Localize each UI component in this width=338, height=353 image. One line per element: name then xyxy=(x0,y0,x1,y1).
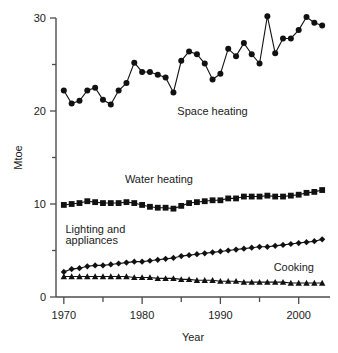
data-point-circle xyxy=(257,61,263,67)
data-point-circle xyxy=(131,60,137,66)
data-point-circle xyxy=(123,80,129,86)
data-point-diamond xyxy=(92,262,98,268)
data-point-square xyxy=(147,204,153,210)
data-point-square xyxy=(202,198,208,204)
data-point-circle xyxy=(76,98,82,104)
data-point-square xyxy=(272,194,278,200)
line-chart-canvas: 01020301970198019902000 Space heatingWat… xyxy=(0,0,338,353)
data-point-diamond xyxy=(84,263,90,269)
data-point-square xyxy=(186,200,192,206)
series-polyline xyxy=(64,16,322,104)
x-tick-label: 1970 xyxy=(52,309,76,321)
data-point-circle xyxy=(92,85,98,91)
y-axis-title: Mtoe xyxy=(12,145,24,169)
data-point-circle xyxy=(178,58,184,64)
data-point-square xyxy=(108,200,114,206)
data-point-circle xyxy=(163,75,169,81)
data-point-diamond xyxy=(100,262,106,268)
data-point-diamond xyxy=(69,266,75,272)
data-point-diamond xyxy=(163,256,169,262)
data-point-square xyxy=(178,203,184,209)
data-point-diamond xyxy=(209,249,215,255)
data-point-diamond xyxy=(217,248,223,254)
data-point-diamond xyxy=(202,250,208,256)
data-point-diamond xyxy=(155,257,161,263)
data-point-circle xyxy=(311,20,317,26)
data-point-diamond xyxy=(131,259,137,265)
series-space-heating xyxy=(61,13,325,107)
data-point-square xyxy=(257,194,263,200)
data-point-circle xyxy=(84,88,90,94)
data-point-square xyxy=(116,200,122,206)
data-point-square xyxy=(319,187,325,193)
data-point-circle xyxy=(69,101,75,107)
series-cooking xyxy=(61,273,326,285)
data-point-diamond xyxy=(170,255,176,261)
data-point-circle xyxy=(241,40,247,46)
data-point-circle xyxy=(288,35,294,41)
data-point-square xyxy=(241,194,247,200)
data-point-square xyxy=(100,200,106,206)
data-point-square xyxy=(288,193,294,199)
data-point-circle xyxy=(296,27,302,33)
data-point-circle xyxy=(139,69,145,75)
x-tick-label: 1990 xyxy=(208,309,232,321)
data-point-square xyxy=(61,202,67,208)
data-point-diamond xyxy=(123,259,129,265)
data-point-diamond xyxy=(249,245,255,251)
data-point-square xyxy=(194,199,200,205)
data-point-circle xyxy=(186,48,192,54)
data-point-square xyxy=(280,194,286,200)
data-point-square xyxy=(77,200,83,206)
data-point-circle xyxy=(61,88,67,94)
data-point-diamond xyxy=(311,238,317,244)
data-point-diamond xyxy=(108,261,114,267)
data-point-circle xyxy=(170,89,176,95)
data-point-square xyxy=(171,206,177,212)
annotation-space-heating: Space heating xyxy=(177,105,247,117)
data-point-circle xyxy=(319,22,325,28)
series-water-heating xyxy=(61,187,325,211)
data-point-diamond xyxy=(186,252,192,258)
annotations-group: Space heatingWater heatingLighting andap… xyxy=(65,105,314,273)
data-point-diamond xyxy=(147,258,153,264)
data-point-square xyxy=(249,194,255,200)
data-point-diamond xyxy=(116,260,122,266)
data-point-square xyxy=(296,192,302,198)
x-axis-title: Year xyxy=(182,331,205,343)
data-point-square xyxy=(92,199,98,205)
data-point-circle xyxy=(194,51,200,57)
data-point-diamond xyxy=(288,241,294,247)
data-point-square xyxy=(225,196,231,202)
data-point-square xyxy=(163,205,169,211)
data-point-circle xyxy=(264,13,270,19)
data-point-circle xyxy=(155,72,161,78)
data-point-circle xyxy=(100,97,106,103)
data-point-circle xyxy=(210,76,216,82)
data-point-diamond xyxy=(280,242,286,248)
data-point-circle xyxy=(147,69,153,75)
data-point-square xyxy=(233,196,239,202)
data-point-circle xyxy=(233,53,239,59)
data-point-circle xyxy=(108,101,114,107)
data-point-square xyxy=(131,200,137,206)
data-point-diamond xyxy=(178,253,184,259)
data-point-diamond xyxy=(241,246,247,252)
annotation-appliances: appliances xyxy=(65,234,118,246)
data-point-square xyxy=(155,205,161,211)
data-point-diamond xyxy=(272,243,278,249)
data-point-diamond xyxy=(319,236,325,242)
chart-figure: 01020301970198019902000 Space heatingWat… xyxy=(0,0,338,353)
data-point-square xyxy=(69,201,75,207)
annotation-cooking: Cooking xyxy=(274,261,314,273)
data-point-square xyxy=(210,197,216,203)
data-point-circle xyxy=(225,46,231,52)
data-point-circle xyxy=(280,35,286,41)
data-point-square xyxy=(218,197,224,203)
data-point-circle xyxy=(304,14,310,20)
data-point-circle xyxy=(272,50,278,56)
data-point-circle xyxy=(217,71,223,77)
data-point-circle xyxy=(249,51,255,57)
y-tick-label: 10 xyxy=(34,198,46,210)
data-point-square xyxy=(84,198,90,204)
